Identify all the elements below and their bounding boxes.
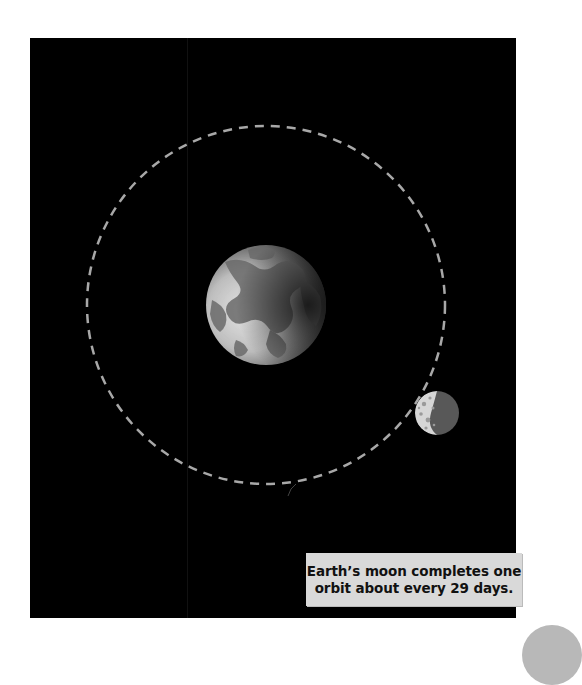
earth-icon: [206, 245, 326, 365]
corner-page-tab: [522, 625, 582, 685]
moon-icon: [415, 391, 459, 435]
caption-line-2: orbit about every 29 days.: [315, 580, 514, 597]
faint-arc-mark: [288, 484, 296, 496]
caption-box: Earth’s moon completes one orbit about e…: [306, 553, 522, 606]
caption-line-1: Earth’s moon completes one: [307, 563, 521, 580]
